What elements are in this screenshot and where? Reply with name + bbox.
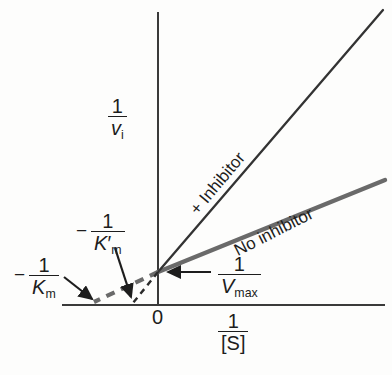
origin-label: 0	[152, 306, 163, 329]
km-numerator: 1	[29, 255, 59, 275]
km-minus-sign: −	[14, 264, 29, 286]
vmax-denominator: Vmax	[218, 274, 261, 296]
km-prime-minus-sign: −	[76, 220, 91, 242]
km-prime-denominator: K′m	[91, 231, 124, 253]
km-prime-numerator: 1	[91, 211, 124, 231]
x-axis-fraction: 1 [S]	[218, 311, 248, 354]
km-denominator: Km	[29, 275, 59, 297]
no-inhibitor-dashed-extrapolation	[94, 272, 158, 302]
y-axis-fraction: 1 vi	[108, 96, 127, 139]
y-axis-label: 1 vi	[108, 96, 127, 139]
x-axis-denominator: [S]	[218, 331, 248, 353]
y-axis-numerator: 1	[108, 96, 127, 116]
km-fraction: 1 Km	[29, 255, 59, 298]
lineweaver-burk-plot	[0, 0, 392, 375]
x-axis-label: 1 [S]	[218, 311, 248, 354]
km-prime-annotation: − 1 K′m	[76, 211, 125, 254]
km-pointer-arrow	[64, 277, 92, 299]
km-prime-fraction: 1 K′m	[91, 211, 124, 254]
inhibitor-dashed-extrapolation	[133, 272, 158, 303]
y-axis-denominator: vi	[108, 116, 127, 138]
km-annotation: − 1 Km	[14, 255, 59, 298]
x-axis-numerator: 1	[218, 311, 248, 331]
